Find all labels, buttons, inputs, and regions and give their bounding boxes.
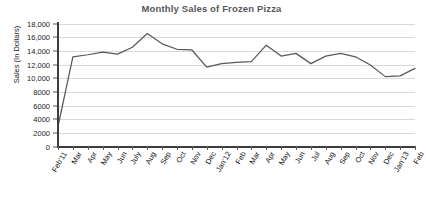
- x-axis-tick-label: Oct: [174, 150, 188, 165]
- x-axis-tick-label: Mar: [248, 150, 262, 166]
- y-axis-tick-label: 2000: [33, 128, 50, 137]
- y-axis-line: [57, 22, 59, 148]
- x-axis-tick-label: July: [129, 150, 143, 166]
- x-axis-tick-label: May: [277, 150, 292, 167]
- x-axis-tick-label: Jul: [309, 150, 322, 163]
- y-axis-tick-label: 16,000: [27, 33, 50, 42]
- x-axis-tick-label: Aug: [144, 150, 158, 166]
- x-axis-tick-label: Apr: [263, 150, 277, 165]
- x-axis-tick-label: Feb'11: [50, 150, 69, 174]
- y-axis-tick-label: 8000: [33, 87, 50, 96]
- series-line-chart: [58, 24, 415, 147]
- x-axis-tick-label: Nov: [188, 150, 202, 166]
- x-axis-tick-label: Nov: [367, 150, 381, 166]
- chart-title: Monthly Sales of Frozen Pizza: [0, 3, 423, 14]
- y-axis-tick-label: 12,000: [27, 60, 50, 69]
- x-axis-tick-label: Jun: [114, 150, 128, 165]
- x-axis-tick-label: Dec: [203, 150, 217, 166]
- y-axis-tick-label: 6000: [33, 101, 50, 110]
- plot-area: [58, 24, 415, 147]
- x-axis-tick-label: May: [99, 150, 114, 167]
- x-axis-tick-label: Sep: [158, 150, 172, 166]
- x-axis-tick-label: Jun: [293, 150, 307, 165]
- x-axis-tick-label: Mar: [69, 150, 83, 166]
- y-axis-tick-labels: 18,00016,00014,00012,00010,0008000600040…: [0, 24, 58, 147]
- x-axis-tick-label: Feb: [233, 150, 247, 166]
- y-axis-tick-label: 14,000: [27, 46, 50, 55]
- series-line-monthly-sales: [58, 33, 415, 126]
- x-axis-tick-label: Aug: [322, 150, 336, 166]
- y-axis-tick-label: 10,000: [27, 74, 50, 83]
- y-axis-tick-label: 18,000: [27, 19, 50, 28]
- x-axis-tick-label: Sep: [337, 150, 351, 166]
- y-axis-tick-label: 4000: [33, 115, 50, 124]
- x-axis-tick-label: Feb: [412, 150, 426, 166]
- x-axis-tick-label: Oct: [353, 150, 367, 165]
- x-axis-tick-label: Apr: [85, 150, 99, 165]
- x-axis-tick-labels: Feb'11MarAprMayJunJulyAugSepOctNovDecJan…: [0, 150, 423, 205]
